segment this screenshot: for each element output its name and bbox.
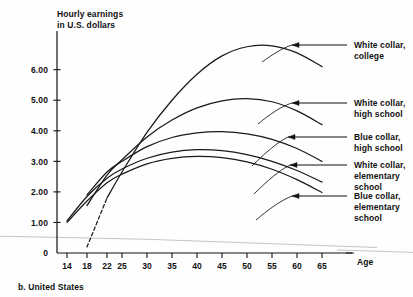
- series-curve-dashed-lead: [87, 198, 107, 247]
- x-tick-label: 50: [242, 261, 252, 271]
- annotation-connector: [262, 45, 292, 62]
- data-curves: [67, 45, 322, 247]
- earnings-age-line-chart: 01.002.003.004.005.006.00 14182225303540…: [0, 0, 413, 297]
- y-axis-title-line2: in U.S. dollars: [57, 20, 115, 30]
- y-axis-tick-labels: 01.002.003.004.005.006.00: [31, 65, 48, 258]
- series-curve: [87, 99, 322, 206]
- x-tick-label: 45: [217, 261, 227, 271]
- chart-axes: [57, 31, 352, 253]
- series-curve: [87, 132, 322, 195]
- series-label: high school: [354, 109, 403, 119]
- series-curve: [107, 45, 322, 198]
- series-annotation-labels: White collar,collegeWhite collar,high sc…: [354, 40, 405, 223]
- x-tick-label: 25: [117, 261, 127, 271]
- y-tick-label: 4.00: [31, 126, 48, 136]
- series-label: Blue collar,: [354, 191, 401, 201]
- annotation-connector: [252, 137, 288, 166]
- series-label: White collar,: [354, 98, 405, 108]
- x-tick-label: 60: [292, 261, 302, 271]
- series-label: high school: [354, 143, 403, 153]
- x-tick-label: 30: [142, 261, 152, 271]
- x-axis-title: Age: [357, 257, 374, 267]
- series-label: White collar,: [354, 160, 405, 170]
- series-label: elementary: [354, 171, 400, 181]
- series-curve: [67, 150, 322, 221]
- series-label: Blue collar,: [354, 132, 401, 142]
- series-label: school: [354, 213, 382, 223]
- annotation-leader-lines: [252, 42, 354, 253]
- series-curve: [67, 156, 322, 222]
- x-tick-label: 14: [62, 261, 72, 271]
- y-tick-label: 6.00: [31, 65, 48, 75]
- annotation-connector: [256, 196, 292, 220]
- x-tick-label: 65: [317, 261, 327, 271]
- y-tick-label: 1.00: [31, 218, 48, 228]
- x-tick-label: 18: [82, 261, 92, 271]
- x-tick-label: 40: [192, 261, 202, 271]
- series-label: college: [354, 51, 384, 61]
- x-tick-label: 22: [102, 261, 112, 271]
- x-tick-label: 35: [167, 261, 177, 271]
- series-label: elementary: [354, 202, 400, 212]
- y-tick-label: 2.00: [31, 187, 48, 197]
- baseline-decoration: [0, 236, 413, 252]
- series-label: White collar,: [354, 40, 405, 50]
- x-axis-tick-labels: 141822253035404550556065: [62, 261, 327, 271]
- figure-caption: b. United States: [18, 282, 84, 292]
- y-tick-label: 0: [43, 248, 48, 258]
- chart-figure: 01.002.003.004.005.006.00 14182225303540…: [0, 0, 413, 297]
- y-tick-label: 5.00: [31, 95, 48, 105]
- y-axis-title-line1: Hourly earnings: [57, 9, 123, 19]
- x-tick-label: 55: [267, 261, 277, 271]
- y-tick-label: 3.00: [31, 157, 48, 167]
